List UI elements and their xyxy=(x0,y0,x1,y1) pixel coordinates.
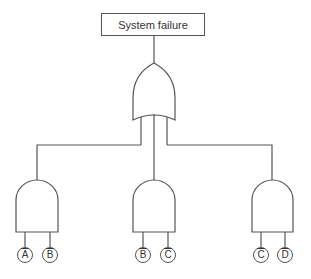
basic-event-not-c-2: C xyxy=(253,247,269,263)
fault-tree-lines xyxy=(0,0,311,279)
basic-event-not-d: D xyxy=(277,247,293,263)
top-event-label: System failure xyxy=(118,19,188,31)
branch-right xyxy=(167,145,272,180)
or-gate xyxy=(133,63,175,120)
and-gate-3 xyxy=(252,180,293,232)
basic-event-not-b: B xyxy=(42,247,58,263)
and-gate-1 xyxy=(16,180,58,232)
and-gate-2 xyxy=(133,180,175,232)
basic-event-not-c: C xyxy=(160,247,176,263)
branch-left xyxy=(37,145,141,180)
top-event-box: System failure xyxy=(101,13,205,36)
basic-event-not-b-2: B xyxy=(135,247,151,263)
basic-event-not-a: A xyxy=(17,247,33,263)
